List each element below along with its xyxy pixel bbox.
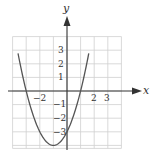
y-tick-label: 1 — [58, 73, 64, 82]
y-tick-label: −1 — [53, 100, 66, 109]
y-tick-label: −2 — [53, 114, 66, 123]
y-axis-arrow-icon — [64, 16, 71, 26]
parabola-plot — [0, 0, 154, 157]
y-axis-label: y — [63, 3, 69, 14]
x-axis-arrow-icon — [132, 88, 142, 95]
y-tick-label: −3 — [53, 128, 66, 137]
y-tick-label: 2 — [58, 60, 64, 69]
x-tick-label: 3 — [104, 94, 110, 103]
x-tick-label: 2 — [91, 94, 97, 103]
x-axis-label: x — [143, 85, 149, 96]
y-tick-label: 3 — [58, 46, 64, 55]
x-axis — [8, 88, 142, 95]
x-tick-label: −2 — [33, 94, 46, 103]
